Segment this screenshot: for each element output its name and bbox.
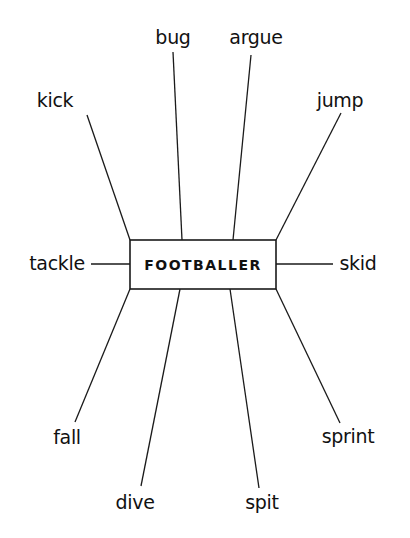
- spoke-line-argue: [233, 55, 251, 240]
- word-kick: kick: [37, 91, 74, 110]
- word-fall: fall: [53, 428, 81, 447]
- word-dive: dive: [115, 493, 154, 512]
- spoke-line-kick: [87, 115, 130, 240]
- word-tackle: tackle: [29, 254, 85, 273]
- spoke-line-jump: [276, 113, 341, 240]
- word-argue: argue: [229, 28, 282, 47]
- spoke-line-bug: [173, 52, 182, 240]
- word-sprint: sprint: [322, 427, 375, 446]
- spoke-line-sprint: [276, 289, 340, 423]
- word-skid: skid: [339, 254, 376, 273]
- word-bug: bug: [155, 28, 190, 47]
- word-spit: spit: [245, 493, 279, 512]
- spoke-line-fall: [75, 289, 130, 422]
- word-jump: jump: [317, 91, 364, 110]
- center-label: FOOTBALLER: [144, 257, 262, 273]
- spoke-line-spit: [230, 289, 259, 488]
- spoke-line-dive: [141, 289, 180, 486]
